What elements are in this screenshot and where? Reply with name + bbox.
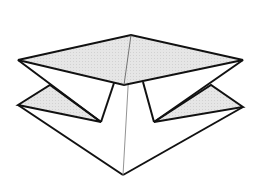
origami-diagram (0, 0, 260, 180)
diagram-svg (0, 0, 260, 180)
top-diamond (18, 35, 243, 85)
